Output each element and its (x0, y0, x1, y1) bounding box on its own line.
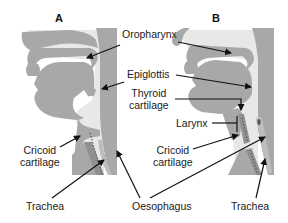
label-cricoid-b-line1: Cricoid (153, 144, 193, 156)
arrow-oesophagus-a (117, 151, 140, 198)
label-oropharynx: Oropharynx (122, 28, 177, 40)
label-cricoid-cartilage-a: Cricoid cartilage (20, 144, 60, 168)
label-larynx: Larynx (176, 117, 208, 129)
panel-label-b: B (212, 12, 220, 24)
label-epiglottis: Epiglottis (127, 68, 170, 80)
label-trachea-a: Trachea (26, 200, 64, 212)
label-cricoid-a-line2: cartilage (20, 156, 60, 168)
panel-label-a: A (55, 12, 63, 24)
upper-lip-a (26, 64, 40, 76)
label-cricoid-cartilage-b: Cricoid cartilage (153, 144, 193, 168)
label-thyroid-line2: cartilage (129, 99, 169, 111)
neck-b (222, 108, 243, 140)
label-oesophagus: Oesophagus (132, 200, 192, 212)
label-thyroid-cartilage: Thyroid cartilage (129, 87, 169, 111)
label-cricoid-a-line1: Cricoid (20, 144, 60, 156)
label-thyroid-line1: Thyroid (129, 87, 169, 99)
label-trachea-b: Trachea (231, 200, 269, 212)
label-cricoid-b-line2: cartilage (153, 156, 193, 168)
arrow-cricoid-b (193, 135, 238, 149)
oesophagus-opening-b (257, 119, 260, 125)
